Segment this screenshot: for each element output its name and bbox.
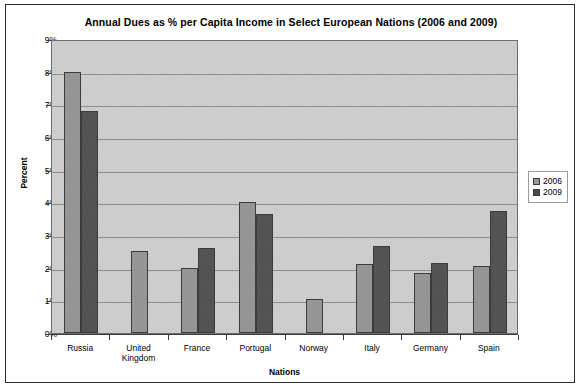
x-category-label: UnitedKingdom bbox=[109, 343, 167, 363]
bar-russia-2006 bbox=[64, 72, 81, 333]
gridline bbox=[52, 139, 517, 140]
x-category-label: Spain bbox=[460, 343, 518, 353]
x-tick-mark bbox=[109, 335, 110, 340]
bar-spain-2006 bbox=[473, 266, 490, 333]
bar-portugal-2006 bbox=[239, 202, 256, 333]
x-tick-mark bbox=[51, 335, 52, 340]
gridline bbox=[52, 204, 517, 205]
x-category-label: Norway bbox=[285, 343, 343, 353]
x-category-label-line: United bbox=[109, 343, 167, 353]
x-category-label-line: Russia bbox=[51, 343, 109, 353]
legend-item-2006[interactable]: 2006 bbox=[533, 176, 562, 187]
gridline bbox=[52, 106, 517, 107]
x-category-label-line: Kingdom bbox=[109, 353, 167, 363]
bar-germany-2009 bbox=[431, 263, 448, 333]
x-axis-label: Nations bbox=[51, 367, 518, 377]
plot-area bbox=[51, 40, 518, 334]
x-tick-mark bbox=[460, 335, 461, 340]
x-tick-mark bbox=[518, 335, 519, 340]
x-category-label: Italy bbox=[343, 343, 401, 353]
gridline bbox=[52, 237, 517, 238]
bar-spain-2009 bbox=[490, 211, 507, 334]
bar-united-kingdom-2006 bbox=[131, 251, 148, 333]
x-category-label: Portugal bbox=[226, 343, 284, 353]
x-category-label-line: Norway bbox=[285, 343, 343, 353]
bar-italy-2009 bbox=[373, 246, 390, 333]
legend-label: 2006 bbox=[543, 177, 562, 186]
chart-title: Annual Dues as % per Capita Income in Se… bbox=[0, 16, 582, 28]
x-category-label: Russia bbox=[51, 343, 109, 353]
x-tick-mark bbox=[343, 335, 344, 340]
x-category-label-line: Italy bbox=[343, 343, 401, 353]
chart-figure: Annual Dues as % per Capita Income in Se… bbox=[0, 0, 582, 389]
x-category-label: Germany bbox=[401, 343, 459, 353]
bar-italy-2006 bbox=[356, 264, 373, 333]
bar-russia-2009 bbox=[81, 111, 98, 333]
bar-france-2006 bbox=[181, 268, 198, 333]
bar-france-2009 bbox=[198, 248, 215, 333]
x-category-label-line: Germany bbox=[401, 343, 459, 353]
x-tick-mark bbox=[168, 335, 169, 340]
x-category-label-line: Portugal bbox=[226, 343, 284, 353]
bar-germany-2006 bbox=[414, 273, 431, 333]
x-category-label: France bbox=[168, 343, 226, 353]
legend-swatch-icon bbox=[533, 178, 540, 185]
bar-norway-2006 bbox=[306, 299, 323, 333]
gridline bbox=[52, 172, 517, 173]
chart-legend: 20062009 bbox=[528, 171, 568, 203]
gridline bbox=[52, 74, 517, 75]
x-tick-mark bbox=[401, 335, 402, 340]
x-tick-mark bbox=[285, 335, 286, 340]
legend-item-2009[interactable]: 2009 bbox=[533, 187, 562, 198]
x-category-label-line: France bbox=[168, 343, 226, 353]
x-category-label-line: Spain bbox=[460, 343, 518, 353]
bar-portugal-2009 bbox=[256, 214, 273, 333]
legend-label: 2009 bbox=[543, 188, 562, 197]
legend-swatch-icon bbox=[533, 189, 540, 196]
x-tick-mark bbox=[226, 335, 227, 340]
